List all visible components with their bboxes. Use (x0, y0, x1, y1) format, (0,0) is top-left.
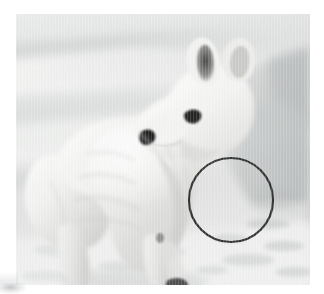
photo-svg (16, 14, 310, 285)
film-grain (16, 14, 310, 285)
screenshot-canvas (0, 0, 324, 294)
arctic-fox-photograph (16, 14, 310, 285)
